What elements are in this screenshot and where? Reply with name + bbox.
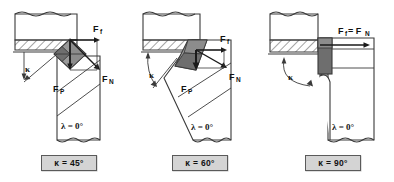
label-force-normal-sub: N [236,76,241,83]
lead-angle-marker: κ [149,70,154,80]
label-force-combined-sub-2: N [365,30,370,37]
caption-lead-angle-45: κ = 45° [41,155,97,171]
label-force-normal-sub: N [109,78,114,85]
workpiece [143,12,200,40]
label-force-passive-sub: P [60,88,65,95]
lead-angle-marker: κ [288,72,293,82]
workpiece [15,12,77,40]
label-inclination-angle: λ = 0° [61,121,84,131]
label-force-passive-sub: P [188,88,193,95]
label-force-normal: F N [229,72,241,83]
label-force-combined-main: F [338,26,344,36]
label-inclination-angle: λ = 0° [332,122,355,132]
lead-angle-indicator [282,57,313,87]
cutting-insert [318,38,332,74]
force-diagram-figure: κ F f F N [0,0,394,182]
caption-lead-angle-60: κ = 60° [172,155,228,171]
label-force-feed: F f [220,34,230,45]
label-force-normal-main: F [102,74,108,84]
label-force-feed-main: F [220,34,226,44]
caption-lead-angle-90: κ = 90° [305,155,361,171]
label-force-feed-main: F [93,24,99,34]
workpiece [270,12,318,40]
lead-angle-marker: κ [25,64,30,74]
label-force-passive-main: F [53,84,59,94]
label-force-combined-equals: = F [348,26,362,36]
label-force-combined: F f = F N [338,26,370,37]
label-force-normal: F N [102,74,114,85]
label-inclination-angle: λ = 0° [191,122,214,132]
label-force-feed-sub: f [100,28,103,35]
label-force-passive-main: F [181,84,187,94]
label-force-feed: F f [93,24,103,35]
label-force-normal-main: F [229,72,235,82]
hatched-machined-layer [270,40,318,52]
